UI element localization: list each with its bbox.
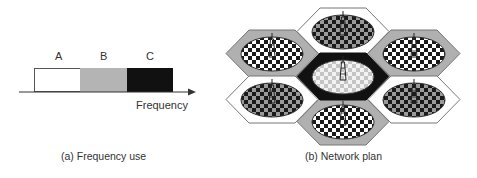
caption-b: (b) Network plan [305,150,382,162]
hexagonal-cell-diagram [0,0,477,178]
